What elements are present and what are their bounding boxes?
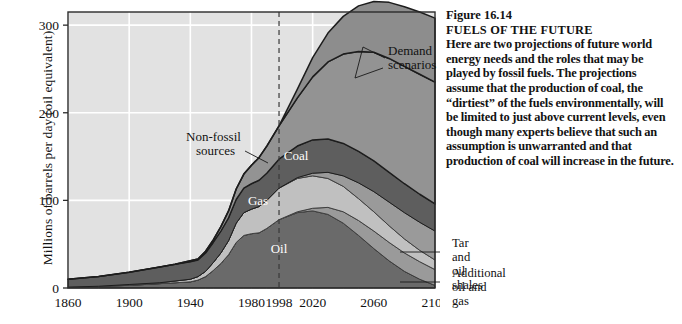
tar-line-1: Tar and [452,236,483,264]
series-label-nonfossil-2: sources [196,143,235,158]
y-tick-label: 100 [39,193,60,208]
caption-figure-number: Figure 16.14 [446,8,676,23]
x-tick-label: 1940 [177,295,204,310]
series-label-coal: Coal [284,148,309,163]
figure-page: Millions of barrels per day (oil equival… [0,0,682,324]
x-tick-label: 2020 [299,295,326,310]
y-tick-label: 200 [39,106,60,121]
series-label-gas: Gas [248,193,268,208]
caption-body: Here are two projections of future world… [446,37,676,168]
additional-line-1: Additional [452,266,506,280]
x-axis-ticks: 18601900194019801998202020602100 [55,295,441,310]
caption-title: FUELS OF THE FUTURE [446,23,676,38]
x-tick-label: 1900 [116,295,143,310]
x-tick-label: 1980 [238,295,265,310]
x-tick-label: 2100 [422,295,441,310]
y-tick-label: 0 [52,281,59,296]
y-tick-label: 300 [39,18,60,33]
x-tick-label: 1860 [55,295,82,310]
chart-figure: Millions of barrels per day (oil equival… [0,0,440,324]
series-label-oil: Oil [271,241,288,256]
stacked-area-chart: 0100200300 18601900194019801998202020602… [0,0,440,324]
figure-caption: Figure 16.14 FUELS OF THE FUTURE Here ar… [446,8,676,169]
x-tick-label: 2060 [360,295,387,310]
y-axis-ticks: 0100200300 [39,18,68,296]
annotation-additional-oil-and-gas: Additional oil and gas [452,266,506,308]
series-label-nonfossil-1: Non-fossil [186,129,241,144]
x-tick-label: 1998 [266,295,293,310]
additional-line-2: oil and gas [452,280,506,308]
series-label-demand-scenarios-2: scenarios [388,57,436,72]
series-label-demand-scenarios-1: Demand [388,43,433,58]
